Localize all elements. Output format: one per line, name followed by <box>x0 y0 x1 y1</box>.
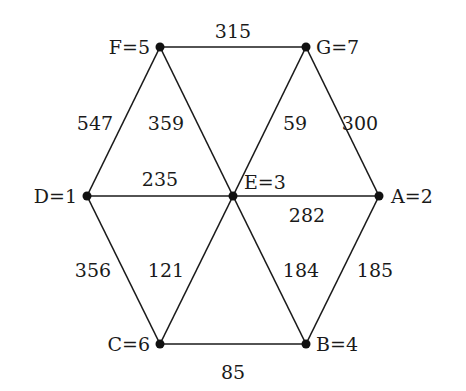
edge-weight-E-C: 121 <box>148 259 184 281</box>
node-label-E: E=3 <box>244 171 286 193</box>
edge-weight-G-E: 59 <box>283 112 307 134</box>
node-B <box>302 340 311 349</box>
edge-weight-F-G: 315 <box>215 20 251 42</box>
node-G <box>302 43 311 52</box>
node-A <box>375 192 384 201</box>
node-label-C: C=6 <box>107 333 150 355</box>
node-F <box>156 43 165 52</box>
node-D <box>83 192 92 201</box>
edge-weight-F-D: 547 <box>77 112 113 134</box>
node-label-D: D=1 <box>34 185 77 207</box>
edge-weight-C-B: 85 <box>221 361 245 383</box>
node-C <box>156 340 165 349</box>
node-E <box>229 192 238 201</box>
node-label-A: A=2 <box>390 185 433 207</box>
node-label-G: G=7 <box>316 36 359 58</box>
node-label-B: B=4 <box>316 333 358 355</box>
edge-weight-D-C: 356 <box>75 259 111 281</box>
edge-weight-F-E: 359 <box>148 112 184 134</box>
weighted-graph-diagram: 3155473595930023528235612118418585 A=2B=… <box>0 0 466 391</box>
edge-weight-E-B: 184 <box>283 259 319 281</box>
edge-weight-A-B: 185 <box>357 259 393 281</box>
edge-weight-D-E: 235 <box>142 168 178 190</box>
edge-weight-G-A: 300 <box>342 112 378 134</box>
edge-weight-E-A: 282 <box>289 204 325 226</box>
edge-weight-labels: 3155473595930023528235612118418585 <box>75 20 393 383</box>
node-label-F: F=5 <box>109 36 150 58</box>
